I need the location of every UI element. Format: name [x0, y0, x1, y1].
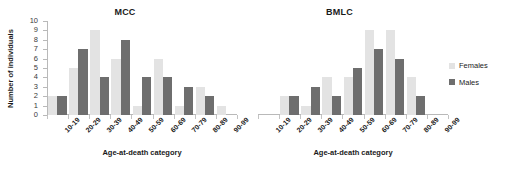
bar-females-70-79: [175, 106, 184, 115]
x-tick-label: 60-69: [169, 116, 187, 134]
bar-females-90-99: [217, 106, 226, 115]
legend: Females Males: [449, 62, 505, 95]
x-tick-label: 30-39: [316, 116, 334, 134]
bars-mcc: [47, 21, 237, 115]
bar-males-70-79: [184, 87, 193, 115]
bar-females-60-69: [154, 59, 163, 115]
bar-males-80-89: [205, 96, 214, 115]
y-axis-label-mcc: Number of individuals: [6, 21, 15, 117]
bar-females-60-69: [365, 30, 374, 115]
bar-males-60-69: [374, 49, 383, 115]
y-tick-label: 5: [34, 64, 38, 72]
x-tick-label: 90-99: [443, 116, 461, 134]
plot-area-bmlc: [258, 21, 448, 115]
chart-panel-bmlc: BMLC 10-1920-2930-3940-4950-5960-6970-79…: [248, 0, 443, 170]
x-axis-label-mcc: Age-at-death category: [47, 148, 237, 157]
x-tick: [237, 115, 238, 119]
x-tick-label: 10-19: [274, 116, 292, 134]
x-tick-label: 70-79: [401, 116, 419, 134]
bar-males-40-49: [332, 96, 341, 115]
bar-males-60-69: [163, 77, 172, 115]
bar-males-40-49: [121, 40, 130, 115]
bar-females-30-39: [90, 30, 99, 115]
x-tick-label: 10-19: [63, 116, 81, 134]
bar-males-30-39: [311, 87, 320, 115]
legend-item-males: Males: [449, 79, 505, 87]
legend-swatch-males: [449, 79, 455, 85]
x-tick-label: 30-39: [105, 116, 123, 134]
bar-females-50-59: [344, 77, 353, 115]
x-tick-label: 20-29: [295, 116, 313, 134]
x-tick-label: 20-29: [84, 116, 102, 134]
figure: MCC Number of individuals 012345678910 1…: [0, 0, 505, 170]
bar-males-80-89: [416, 96, 425, 115]
chart-panel-mcc: MCC Number of individuals 012345678910 1…: [0, 0, 250, 170]
x-tick-label: 70-79: [190, 116, 208, 134]
bar-females-50-59: [133, 106, 142, 115]
bar-females-70-79: [386, 30, 395, 115]
y-tick-label: 6: [34, 55, 38, 63]
y-tick-label: 2: [34, 92, 38, 100]
x-tick-label: 60-69: [380, 116, 398, 134]
y-tick-label: 1: [34, 102, 38, 110]
bar-males-70-79: [395, 59, 404, 115]
bar-females-80-89: [196, 87, 205, 115]
bar-males-30-39: [100, 77, 109, 115]
x-tick-labels-bmlc: 10-1920-2930-3940-4950-5960-6970-7980-89…: [258, 116, 448, 148]
x-tick-label: 40-49: [338, 116, 356, 134]
y-tick-label: 9: [34, 27, 38, 35]
bar-males-50-59: [353, 68, 362, 115]
bar-females-40-49: [322, 77, 331, 115]
bar-females-30-39: [301, 106, 310, 115]
bar-males-50-59: [142, 77, 151, 115]
x-tick-label: 40-49: [127, 116, 145, 134]
legend-item-females: Females: [449, 62, 505, 70]
bar-females-20-29: [69, 68, 78, 115]
bar-females-20-29: [280, 96, 289, 115]
bars-bmlc: [258, 21, 448, 115]
y-tick-label: 8: [34, 36, 38, 44]
plot-area-mcc: 012345678910: [47, 21, 237, 115]
x-axis-label-bmlc: Age-at-death category: [258, 148, 448, 157]
x-tick-label: 50-59: [359, 116, 377, 134]
y-tick-label: 0: [34, 111, 38, 119]
bar-males-20-29: [78, 49, 87, 115]
bar-males-20-29: [289, 96, 298, 115]
bar-females-80-89: [407, 77, 416, 115]
x-tick-labels-mcc: 10-1920-2930-3940-4950-5960-6970-7980-89…: [47, 116, 237, 148]
x-tick-label: 80-89: [422, 116, 440, 134]
y-tick-label: 10: [30, 17, 38, 25]
bar-males-10-19: [57, 96, 66, 115]
bar-females-10-19: [48, 96, 57, 115]
y-tick-label: 3: [34, 83, 38, 91]
x-tick-label: 50-59: [148, 116, 166, 134]
x-tick: [448, 115, 449, 119]
legend-label-males: Males: [459, 79, 479, 87]
bar-females-40-49: [111, 59, 120, 115]
x-tick-label: 80-89: [211, 116, 229, 134]
chart-title-bmlc: BMLC: [242, 7, 437, 17]
y-tick-label: 4: [34, 74, 38, 82]
legend-swatch-females: [449, 63, 455, 69]
y-tick-label: 7: [34, 45, 38, 53]
legend-label-females: Females: [459, 62, 488, 70]
